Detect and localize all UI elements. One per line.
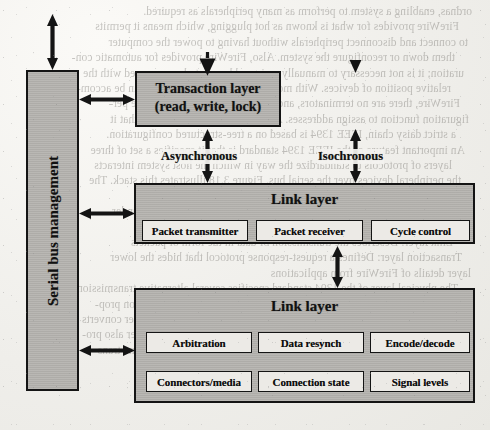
arrow-host-to-transaction-layer (199, 52, 216, 74)
link-layer-item-cycle-control: Cycle control (371, 220, 470, 241)
link-layer-item-packet-receiver-label: Packet receiver (274, 225, 345, 237)
physical-layer-item-connectors-media: Connectors/media (146, 371, 252, 392)
physical-layer-item-encode-decode-label: Encode/decode (386, 337, 455, 349)
diagram-canvas: ordnas, enabling a system to perform as … (0, 0, 490, 430)
arrow-host-to-serial-bus (44, 12, 61, 72)
link-layer-item-cycle-control-label: Cycle control (390, 225, 451, 237)
transaction-layer-title: Transaction layer (read, write, lock) (137, 80, 279, 116)
link-layer-item-packet-receiver: Packet receiver (256, 220, 363, 241)
link-layer-title: Link layer (136, 191, 473, 208)
isochronous-label: Isochronous (317, 149, 384, 164)
physical-layer-item-connection-state: Connection state (258, 371, 364, 392)
arrow-host-to-link-layer-isochronous (347, 52, 364, 74)
physical-layer-item-arbitration-label: Arbitration (172, 337, 225, 349)
physical-layer-item-data-resynch-label: Data resynch (281, 337, 342, 349)
arrow-serial-bus-to-transaction-layer (78, 91, 136, 108)
physical-layer-item-connection-state-label: Connection state (273, 376, 350, 388)
link-layer-item-packet-transmitter: Packet transmitter (142, 220, 248, 241)
physical-layer-item-signal-levels-label: Signal levels (392, 376, 448, 388)
physical-layer-item-arbitration: Arbitration (146, 332, 252, 353)
transaction-layer-box: Transaction layer (read, write, lock) (135, 71, 281, 127)
asynchronous-label: Asynchronous (160, 149, 238, 164)
arrow-serial-bus-to-physical-layer (78, 342, 136, 359)
serial-bus-management-box: Serial bus management (26, 70, 79, 391)
physical-layer-item-data-resynch: Data resynch (258, 332, 364, 353)
arrow-serial-bus-to-link-layer (78, 205, 136, 222)
serial-bus-management-label: Serial bus management (44, 156, 61, 306)
physical-layer-item-connectors-media-label: Connectors/media (157, 376, 241, 388)
physical-layer-item-encode-decode: Encode/decode (370, 332, 470, 353)
arrow-link-to-physical-layer (329, 245, 346, 289)
transaction-layer-title-line1: Transaction layer (155, 81, 260, 96)
physical-layer-title: Link layer (136, 298, 473, 315)
transaction-layer-title-line2: (read, write, lock) (155, 99, 261, 114)
link-layer-item-packet-transmitter-label: Packet transmitter (152, 225, 238, 237)
physical-layer-item-signal-levels: Signal levels (370, 371, 470, 392)
